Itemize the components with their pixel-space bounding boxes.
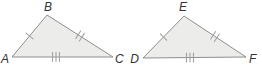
triangle-def: D E F <box>130 0 257 66</box>
triangle-def-shape <box>143 16 246 58</box>
vertex-label-d: D <box>130 52 139 66</box>
vertex-label-a: A <box>0 52 9 66</box>
vertex-label-e: E <box>179 0 188 14</box>
triangle-abc-shape <box>12 15 113 57</box>
congruent-triangles-svg: A B C D E F <box>0 0 262 69</box>
geometry-figure: A B C D E F <box>0 0 262 69</box>
vertex-label-b: B <box>44 0 52 14</box>
triangle-abc: A B C <box>0 0 124 66</box>
vertex-label-f: F <box>249 52 257 66</box>
vertex-label-c: C <box>115 52 124 66</box>
